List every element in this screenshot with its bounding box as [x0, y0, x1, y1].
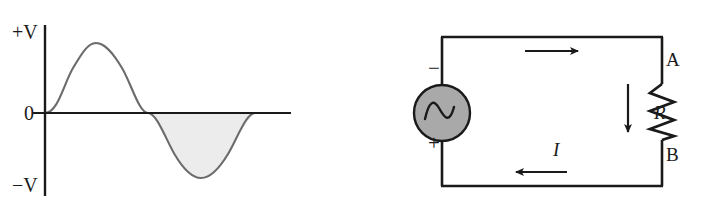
axis-label-negative-v: −V	[12, 175, 38, 195]
source-positive-terminal-label: +	[428, 133, 440, 154]
node-label-b: B	[666, 145, 679, 164]
circuit-graphic	[350, 0, 701, 213]
figure-root: +V 0 −V	[0, 0, 701, 213]
axis-label-zero: 0	[24, 103, 34, 123]
source-negative-terminal-label: −	[428, 58, 440, 79]
resistor-label: R	[654, 103, 666, 122]
node-label-a: A	[666, 50, 680, 69]
waveform-graphic	[0, 0, 350, 213]
current-label: I	[553, 140, 559, 159]
ac-circuit-panel: A B R I − +	[350, 0, 701, 213]
negative-half-cycle-shading	[148, 113, 255, 178]
voltage-waveform-panel: +V 0 −V	[0, 0, 350, 213]
axis-label-positive-v: +V	[12, 22, 38, 42]
